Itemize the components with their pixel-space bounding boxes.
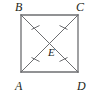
point-label-E: E — [48, 46, 55, 58]
diagonals — [21, 15, 78, 72]
vertex-label-A: A — [15, 80, 22, 92]
geometry-figure: B C D A E — [0, 0, 100, 95]
vertex-label-C: C — [76, 1, 84, 13]
vertex-label-D: D — [77, 80, 86, 92]
vertex-label-B: B — [15, 1, 22, 13]
